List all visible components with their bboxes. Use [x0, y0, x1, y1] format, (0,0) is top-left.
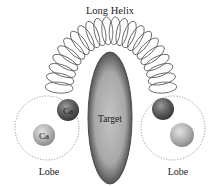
target: Target [88, 52, 132, 184]
target-label: Target [98, 114, 122, 124]
helix-loop [149, 81, 178, 94]
helix-loop [45, 81, 74, 94]
lobe-left: Ca Ca Lobe [15, 96, 79, 177]
diagram-title: Long Helix [86, 5, 135, 16]
helix-loop [142, 51, 172, 74]
ion-light [170, 123, 194, 147]
lobe-left-label: Lobe [39, 166, 60, 177]
lobe-right: Lobe [141, 96, 205, 177]
helix-loop [50, 51, 80, 74]
ca-ion-light-label: Ca [39, 131, 49, 141]
ca-ion-dark-label: Ca [63, 106, 73, 116]
helix-target-diagram: Long Helix Ca Ca Lobe Lobe Target [0, 0, 220, 186]
helix-loop [45, 71, 75, 88]
lobe-right-label: Lobe [168, 166, 189, 177]
ion-dark [152, 98, 174, 120]
helix-loop [119, 19, 139, 49]
